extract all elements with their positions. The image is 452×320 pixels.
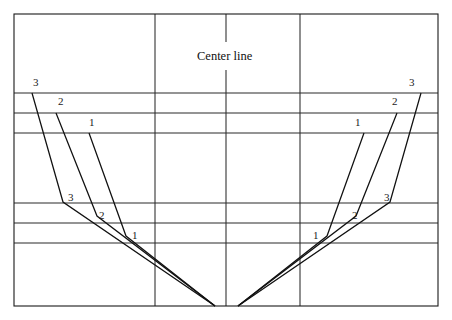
body-plan-canvas — [0, 0, 452, 320]
station-label-lbl-left-top-3: 3 — [33, 77, 39, 88]
station-label-lbl-right-top-2: 2 — [392, 96, 398, 107]
station-label-lbl-right-bot-3: 3 — [384, 192, 390, 203]
hull-station-line-left-3 — [32, 93, 215, 306]
station-label-lbl-right-top-3: 3 — [409, 77, 415, 88]
station-label-lbl-right-bot-1: 1 — [313, 230, 319, 241]
station-label-lbl-left-top-2: 2 — [58, 96, 64, 107]
center-line-caption: Center line — [197, 50, 252, 63]
station-label-lbl-right-bot-2: 2 — [352, 210, 358, 221]
station-label-lbl-right-top-1: 1 — [355, 117, 361, 128]
hull-station-line-left-2 — [56, 113, 215, 306]
hull-station-line-right-2 — [238, 113, 397, 306]
station-label-lbl-left-top-1: 1 — [89, 117, 95, 128]
hull-station-line-left-1 — [89, 133, 215, 306]
body-plan-drawing: Center line 321321321321 — [0, 0, 452, 320]
station-label-lbl-left-bot-2: 2 — [99, 210, 105, 221]
station-label-lbl-left-bot-1: 1 — [132, 230, 138, 241]
station-label-lbl-left-bot-3: 3 — [68, 192, 74, 203]
hull-station-line-right-3 — [238, 93, 421, 306]
hull-station-line-right-1 — [238, 133, 364, 306]
